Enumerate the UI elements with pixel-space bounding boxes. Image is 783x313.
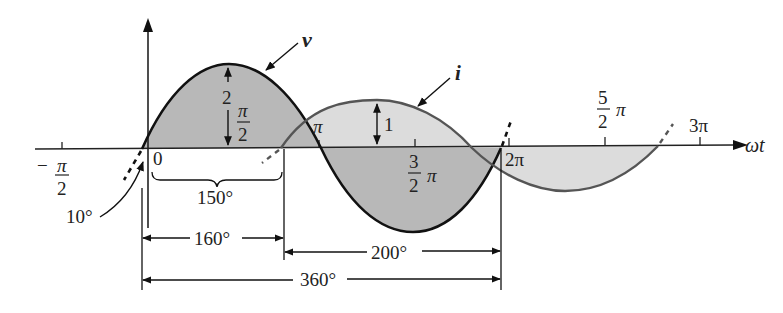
v-peak-frac-den: 2 [238, 124, 248, 145]
brace-150-label: 150° [197, 187, 233, 208]
tick-label-pi: π [313, 116, 323, 137]
tick-label-5pi2-pi: π [616, 99, 626, 120]
i-curve-label: i [455, 61, 461, 85]
v-dashed-extension-left [124, 151, 141, 180]
tick-label-neg-pi-den: 2 [57, 178, 67, 199]
lead-angle-pointer [100, 162, 143, 217]
v-amplitude-label: 2 [222, 87, 232, 108]
lead-angle-label: 10° [66, 206, 93, 227]
vertical-axis-arrow-icon [143, 18, 153, 32]
tick-label-zero: 0 [153, 148, 163, 169]
v-peak-frac-num: π [238, 100, 248, 121]
v-pointer-arrow [266, 43, 298, 70]
tick-label-5pi2-num: 5 [598, 87, 608, 108]
tick-label-neg-sign: − [37, 155, 48, 176]
dim-160-label: 160° [194, 228, 230, 249]
dim-200-label: 200° [371, 242, 407, 263]
i-dashed-extension-left [262, 150, 279, 163]
tick-label-3pi2-num: 3 [409, 151, 419, 172]
dim-360-label: 360° [300, 269, 336, 290]
v-curve-label: v [302, 27, 312, 52]
i-amplitude-label: 1 [384, 114, 394, 135]
tick-label-three-pi: 3π [689, 115, 709, 136]
tick-label-neg-pi-num: π [57, 155, 67, 176]
v-dashed-extension-right [502, 118, 512, 146]
wt-axis-label: ωt [745, 134, 765, 156]
phase-diagram: ωt 2 π 2 1 v i − π 2 0 π 3 2 π 2π 5 2 π … [0, 0, 783, 313]
brace-150 [152, 172, 282, 187]
i-dashed-extension-right [660, 124, 673, 143]
tick-label-3pi2-den: 2 [409, 175, 419, 196]
tick-label-3pi2-pi: π [427, 165, 437, 186]
tick-label-5pi2-den: 2 [598, 111, 608, 132]
i-pointer-arrow [418, 78, 450, 106]
tick-label-two-pi: 2π [505, 149, 525, 170]
